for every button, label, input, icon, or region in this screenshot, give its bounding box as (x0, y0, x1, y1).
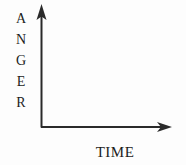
y-axis-label-letter: R (10, 92, 32, 113)
y-axis-label-letter: A (10, 8, 32, 29)
y-axis-label-letter: E (10, 71, 32, 92)
y-axis-label-letter: N (10, 29, 32, 50)
anger-vs-time-chart: A N G E R TIME (0, 0, 186, 165)
y-axis-label-letter: G (10, 50, 32, 71)
x-axis-label: TIME (72, 144, 158, 160)
y-axis-label: A N G E R (10, 8, 32, 113)
